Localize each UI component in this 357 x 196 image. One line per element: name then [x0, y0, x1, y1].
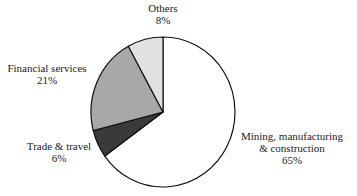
- label-others-pct: 8%: [118, 14, 208, 26]
- label-trade-pct: 6%: [14, 152, 104, 164]
- label-mining-pct: 65%: [233, 154, 351, 166]
- pie-chart: [0, 0, 357, 196]
- label-financial: Financial services 21%: [2, 62, 92, 86]
- label-others: Others 8%: [118, 2, 208, 26]
- label-financial-name: Financial services: [2, 62, 92, 74]
- label-mining-name: Mining, manufacturing: [233, 130, 351, 142]
- label-others-name: Others: [118, 2, 208, 14]
- label-trade-name: Trade & travel: [14, 140, 104, 152]
- label-mining-name2: & construction: [233, 142, 351, 154]
- label-mining: Mining, manufacturing & construction 65%: [233, 130, 351, 166]
- label-financial-pct: 21%: [2, 74, 92, 86]
- label-trade: Trade & travel 6%: [14, 140, 104, 164]
